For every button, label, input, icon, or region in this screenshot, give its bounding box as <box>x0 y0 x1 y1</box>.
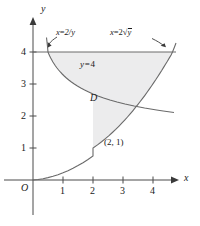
label-left-curve-rhs: 2/y <box>65 27 75 37</box>
label-right-curve-equation: x=2√y <box>110 28 131 37</box>
y-tick-label-2: 2 <box>21 111 26 121</box>
x-axis-label: x <box>184 173 188 183</box>
y-tick-label-3: 3 <box>21 79 26 89</box>
label-left-curve-equation: x=2/y <box>56 28 75 37</box>
region-label-d: D <box>90 93 97 103</box>
y-axis-arrowhead <box>30 17 37 25</box>
x-axis-arrowhead <box>171 177 179 184</box>
leader-left-curve <box>49 37 57 45</box>
x-tick-label-4: 4 <box>150 186 155 196</box>
y-tick-label-4: 4 <box>21 47 26 57</box>
x-tick-label-3: 3 <box>120 186 125 196</box>
y-tick-label-1: 1 <box>21 143 26 153</box>
x-tick-label-2: 2 <box>90 186 95 196</box>
x-tick-label-1: 1 <box>60 186 65 196</box>
origin-label: O <box>21 183 28 193</box>
intersection-point-label: (2, 1) <box>104 138 124 147</box>
label-top-line-equation: y = 4 <box>80 60 95 69</box>
y-axis-label: y <box>41 4 45 14</box>
label-right-curve-radicand: y <box>128 28 132 37</box>
radical-bar-icon <box>128 28 133 29</box>
leader-right-curve <box>152 39 164 46</box>
math-figure <box>0 0 200 226</box>
